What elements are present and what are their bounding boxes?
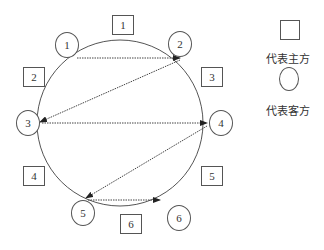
- guest-oval-label: 6: [176, 212, 182, 224]
- host-box-3: 3: [201, 67, 223, 87]
- host-box-label: 3: [209, 71, 215, 83]
- guest-oval-label: 1: [64, 39, 70, 51]
- guest-oval-3: 3: [16, 110, 40, 136]
- host-box-2: 2: [23, 67, 45, 87]
- host-box-label: 1: [120, 19, 126, 31]
- host-box-4: 4: [23, 166, 45, 186]
- guest-oval-1: 1: [55, 32, 79, 58]
- host-box-label: 5: [209, 170, 215, 182]
- host-box-label: 2: [31, 71, 37, 83]
- guest-oval-label: 4: [218, 117, 224, 129]
- arrow-4-to-5: [86, 126, 207, 198]
- guest-oval-5: 5: [71, 200, 95, 226]
- legend-guest-label: 代表客方: [266, 102, 310, 118]
- legend-host-label: 代表主方: [266, 50, 310, 66]
- legend-host-square-icon: [280, 20, 300, 40]
- guest-oval-2: 2: [168, 31, 192, 57]
- legend-guest-oval-icon: [279, 67, 299, 91]
- guest-oval-label: 2: [177, 38, 183, 50]
- match-schedule-diagram: 1 2 3 4 5 6 1 2 3 4 5 6 代表主方 代表客方: [0, 0, 324, 250]
- arrow-2-to-3: [40, 60, 180, 122]
- guest-oval-6: 6: [167, 205, 191, 231]
- host-box-label: 6: [128, 218, 134, 230]
- host-box-label: 4: [31, 170, 37, 182]
- host-box-1: 1: [112, 15, 134, 35]
- host-box-6: 6: [120, 214, 142, 234]
- diagram-canvas: [0, 0, 324, 250]
- guest-oval-label: 5: [80, 207, 86, 219]
- host-box-5: 5: [201, 166, 223, 186]
- guest-oval-label: 3: [25, 117, 31, 129]
- guest-oval-4: 4: [209, 110, 233, 136]
